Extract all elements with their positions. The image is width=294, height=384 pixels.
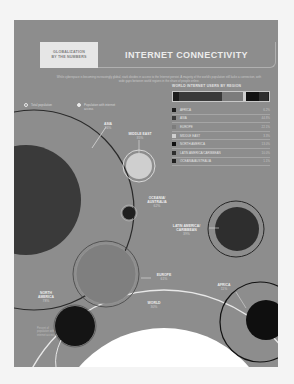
swatch-icon <box>172 125 176 129</box>
legend-total-label: Total population <box>31 103 52 107</box>
series-label: GLOBALIZATION BY THE NUMBERS <box>40 50 98 59</box>
region-value: 11% <box>209 287 239 291</box>
series-label-line1: GLOBALIZATION <box>53 50 85 54</box>
stats-row: ASIA44.8% <box>172 115 270 124</box>
label-latin-america: LATIN AMERICA/ CARIBBEAN39% <box>164 224 209 236</box>
stats-row: MIDDLE EAST3.3% <box>172 132 270 141</box>
bar-segment-europe <box>222 92 243 101</box>
oceania-users-circle <box>123 207 136 220</box>
row-pct: 1.1% <box>263 159 270 163</box>
footnote: Percent of population with internet acce… <box>37 327 59 337</box>
stats-row: EUROPE22.1% <box>172 123 270 132</box>
page-title: INTERNET CONNECTIVITY <box>98 50 275 60</box>
region-value: 78% <box>34 299 58 303</box>
region-name: NORTH AMERICA <box>38 291 54 299</box>
stats-panel: WORLD INTERNET USERS BY REGION AFRICA6.2… <box>172 84 270 166</box>
swatch-icon <box>172 116 176 120</box>
row-name: LATIN AMERICA/CARIBBEAN <box>180 151 261 155</box>
asia-users-circle <box>14 145 81 255</box>
region-name: LATIN AMERICA/ CARIBBEAN <box>173 224 200 232</box>
row-pct: 3.3% <box>263 134 270 138</box>
row-name: MIDDLE EAST <box>180 134 263 138</box>
bar-segment-latin-america <box>259 92 268 101</box>
stats-rows: AFRICA6.2% ASIA44.8% EUROPE22.1% MIDDLE … <box>172 106 270 166</box>
stats-row: LATIN AMERICA/CARIBBEAN10.0% <box>172 149 270 158</box>
swatch-icon <box>172 159 176 163</box>
legend-total: Total population <box>24 103 52 107</box>
bar-segment-north-america <box>246 92 258 101</box>
bar-segment-oceania <box>268 92 269 101</box>
intro-text: While cyberspace is becoming increasingl… <box>54 75 264 83</box>
label-asia: ASIA26% <box>94 122 122 130</box>
stacked-share-bar <box>172 91 270 102</box>
row-pct: 6.2% <box>263 108 270 112</box>
region-value: 35% <box>120 136 160 140</box>
swatch-icon <box>172 134 176 138</box>
row-pct: 10.0% <box>261 151 270 155</box>
ring-legend-icon <box>24 103 28 107</box>
region-value: 62% <box>142 204 172 208</box>
row-pct: 22.1% <box>261 125 270 129</box>
label-africa: AFRICA11% <box>209 283 239 291</box>
swatch-icon <box>172 142 176 146</box>
swatch-icon <box>172 108 176 112</box>
row-name: EUROPE <box>180 125 261 129</box>
label-world: WORLD30% <box>142 301 166 309</box>
legend-users-label: Population with internet access <box>84 103 125 111</box>
title-bar: INTERNET CONNECTIVITY <box>98 42 276 68</box>
europe-users-circle <box>76 244 136 304</box>
bar-segment-asia <box>179 92 222 101</box>
label-oceania: OCEANIA/ AUSTRALIA62% <box>142 196 172 208</box>
legend-users: Population with internet access <box>77 103 125 111</box>
swatch-icon <box>172 151 176 155</box>
stats-row: OCEANIA/AUSTRALIA1.1% <box>172 158 270 167</box>
row-pct: 44.8% <box>261 116 270 120</box>
row-pct: 13.0% <box>261 142 270 146</box>
stats-title: WORLD INTERNET USERS BY REGION <box>172 84 270 88</box>
label-middle-east: MIDDLE EAST35% <box>120 132 160 140</box>
bubble-chart <box>14 20 278 367</box>
label-north-america: NORTH AMERICA78% <box>34 291 58 303</box>
region-value: 39% <box>164 232 209 236</box>
series-label-line2: BY THE NUMBERS <box>51 55 86 59</box>
row-name: NORTH AMERICA <box>180 142 261 146</box>
middle-east-users-circle <box>126 153 152 179</box>
row-name: OCEANIA/AUSTRALIA <box>180 159 263 163</box>
region-value: 26% <box>94 126 122 130</box>
africa-users-circle <box>246 300 278 340</box>
infographic-panel: GLOBALIZATION BY THE NUMBERS INTERNET CO… <box>14 20 278 367</box>
filled-dot-legend-icon <box>77 103 81 107</box>
stats-row: AFRICA6.2% <box>172 106 270 115</box>
latin-america-users-circle <box>215 207 259 251</box>
row-name: ASIA <box>180 116 261 120</box>
region-name: OCEANIA/ AUSTRALIA <box>147 196 167 204</box>
region-value: 61% <box>150 277 178 281</box>
region-value: 30% <box>142 305 166 309</box>
stats-row: NORTH AMERICA13.0% <box>172 140 270 149</box>
label-europe: EUROPE61% <box>150 273 178 281</box>
row-name: AFRICA <box>180 108 263 112</box>
series-tab: GLOBALIZATION BY THE NUMBERS <box>40 42 98 68</box>
